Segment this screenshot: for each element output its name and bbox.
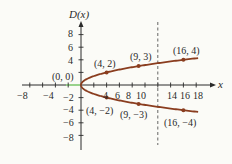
point-label: (4, −2)	[86, 105, 113, 117]
x-axis-arrow-icon	[210, 83, 216, 88]
y-tick-label: −4	[63, 104, 74, 115]
chart-figure: D(x) x −8 −4 4 6 8 10 14 16 18 8 6 4 −2 …	[0, 0, 232, 164]
x-tick-label: 8	[126, 90, 131, 101]
x-tick-label: −4	[43, 90, 54, 101]
x-axis-label: x	[217, 78, 223, 90]
x-tick-label: 16	[180, 90, 190, 101]
x-tick-label: 18	[193, 90, 203, 101]
data-point-marker	[181, 108, 185, 112]
point-label: (4, 2)	[94, 58, 116, 70]
x-tick-label: 10	[136, 90, 146, 101]
point-label: (9, 3)	[130, 51, 152, 63]
y-tick-label: 6	[68, 42, 73, 53]
point-label: (16, −4)	[164, 117, 196, 129]
data-point-marker	[137, 102, 141, 106]
point-label: (0, 0)	[52, 71, 74, 83]
y-tick-label: −8	[63, 132, 74, 143]
data-point-marker	[181, 58, 185, 62]
y-tick-label: −2	[63, 92, 74, 103]
data-point-marker	[137, 64, 141, 68]
y-tick-label: −6	[63, 117, 74, 128]
y-axis-arrow-icon	[79, 21, 84, 27]
data-point-marker	[105, 70, 109, 74]
x-tick-label: −8	[17, 90, 28, 101]
y-axis-label: D(x)	[68, 8, 89, 21]
x-tick-label: 6	[115, 90, 120, 101]
point-label: (9, −3)	[120, 109, 147, 121]
y-tick-label: 8	[68, 28, 73, 39]
y-tick-label: 4	[68, 55, 73, 66]
plot-svg: D(x) x −8 −4 4 6 8 10 14 16 18 8 6 4 −2 …	[0, 0, 232, 164]
point-label: (16, 4)	[173, 45, 200, 57]
x-tick-label: 14	[167, 90, 177, 101]
axes	[22, 21, 216, 150]
x-tick-label: 4	[103, 90, 108, 101]
